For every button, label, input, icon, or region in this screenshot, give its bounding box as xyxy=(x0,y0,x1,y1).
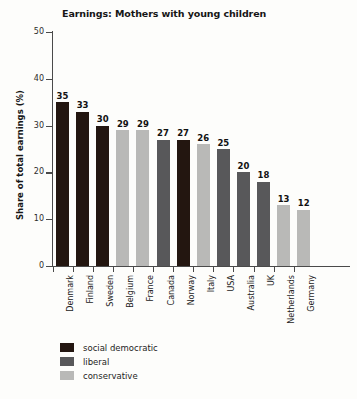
x-axis-line xyxy=(52,266,350,267)
x-axis-tick xyxy=(73,267,74,272)
x-axis-label-australia: Australia xyxy=(247,275,256,310)
y-axis-tick-label: 50 xyxy=(4,27,44,36)
x-axis-label-france: France xyxy=(146,275,155,302)
bar-norway xyxy=(177,140,190,266)
bar-netherlands xyxy=(277,205,290,266)
y-axis-tick-label: 40 xyxy=(4,74,44,83)
bar-value-label: 25 xyxy=(210,138,237,148)
y-axis-tick-label: 30 xyxy=(4,121,44,130)
bar-germany xyxy=(297,210,310,266)
y-axis-title: Share of total earnings (%) xyxy=(15,75,25,235)
x-axis-label-usa: USA xyxy=(227,275,236,292)
x-axis-label-uk: UK xyxy=(267,275,276,286)
x-axis-label-norway: Norway xyxy=(187,275,196,305)
x-axis-tick xyxy=(233,267,234,272)
x-axis-tick xyxy=(93,267,94,272)
y-axis-tick-label: 20 xyxy=(4,167,44,176)
y-axis-tick-label: 0 xyxy=(4,261,44,270)
chart-legend: social democraticliberalconservative xyxy=(60,341,158,383)
bar-value-label: 33 xyxy=(69,100,96,110)
legend-item: conservative xyxy=(60,369,158,382)
legend-label: conservative xyxy=(83,371,138,381)
x-axis-tick xyxy=(53,267,54,272)
chart-figure: Earnings: Mothers with young children Sh… xyxy=(0,0,357,399)
x-axis-tick xyxy=(294,267,295,272)
bar-belgium xyxy=(116,130,129,266)
bar-uk xyxy=(257,182,270,266)
bar-italy xyxy=(197,144,210,266)
legend-swatch-icon xyxy=(60,357,74,366)
bar-finland xyxy=(76,112,89,266)
x-axis-tick xyxy=(173,267,174,272)
x-axis-tick xyxy=(254,267,255,272)
legend-label: social democratic xyxy=(83,343,158,353)
x-axis-label-sweden: Sweden xyxy=(106,275,115,307)
chart-title: Earnings: Mothers with young children xyxy=(62,8,322,19)
bar-usa xyxy=(217,149,230,266)
bar-value-label: 18 xyxy=(250,170,277,180)
x-axis-tick xyxy=(193,267,194,272)
x-axis-tick xyxy=(213,267,214,272)
plot-area: 35333029292727262520181312 xyxy=(52,32,352,266)
x-axis-tick xyxy=(113,267,114,272)
y-axis-tick-label: 10 xyxy=(4,214,44,223)
bar-denmark xyxy=(56,102,69,266)
legend-swatch-icon xyxy=(60,343,74,352)
x-axis-label-netherlands: Netherlands xyxy=(287,275,296,324)
legend-item: social democratic xyxy=(60,341,158,354)
x-axis-label-finland: Finland xyxy=(86,275,95,304)
x-axis-label-denmark: Denmark xyxy=(66,275,75,312)
x-axis-tick xyxy=(274,267,275,272)
bar-australia xyxy=(237,172,250,266)
bar-canada xyxy=(157,140,170,266)
bar-france xyxy=(136,130,149,266)
legend-label: liberal xyxy=(83,357,109,367)
bar-sweden xyxy=(96,126,109,266)
x-axis-tick xyxy=(153,267,154,272)
x-axis-label-canada: Canada xyxy=(167,275,176,305)
x-axis-label-italy: Italy xyxy=(207,275,216,292)
x-axis-label-belgium: Belgium xyxy=(126,275,135,308)
legend-swatch-icon xyxy=(60,371,74,380)
legend-item: liberal xyxy=(60,355,158,368)
bar-value-label: 12 xyxy=(290,198,317,208)
x-axis-label-germany: Germany xyxy=(307,275,316,312)
x-axis-tick xyxy=(133,267,134,272)
y-axis-tick xyxy=(46,266,52,267)
